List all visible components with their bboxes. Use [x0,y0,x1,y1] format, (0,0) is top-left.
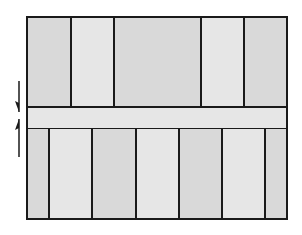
shear-arrows [15,81,19,157]
bottom-strip [136,129,179,219]
band-fill [27,107,287,129]
top-strip-row [27,17,287,107]
bottom-strip [222,129,265,219]
up-arrow-icon [15,119,19,157]
top-strip [244,17,287,107]
horizontal-band [27,107,287,129]
top-strip [201,17,244,107]
bottom-strip [27,129,49,219]
strip-diagram [0,0,302,235]
bottom-strip-row [27,129,287,219]
bottom-strip [49,129,92,219]
top-strip [114,17,201,107]
down-arrow-icon [15,81,19,112]
top-strip [71,17,114,107]
top-strip [27,17,71,107]
bottom-strip [179,129,222,219]
bottom-strip [92,129,136,219]
bottom-strip [265,129,287,219]
